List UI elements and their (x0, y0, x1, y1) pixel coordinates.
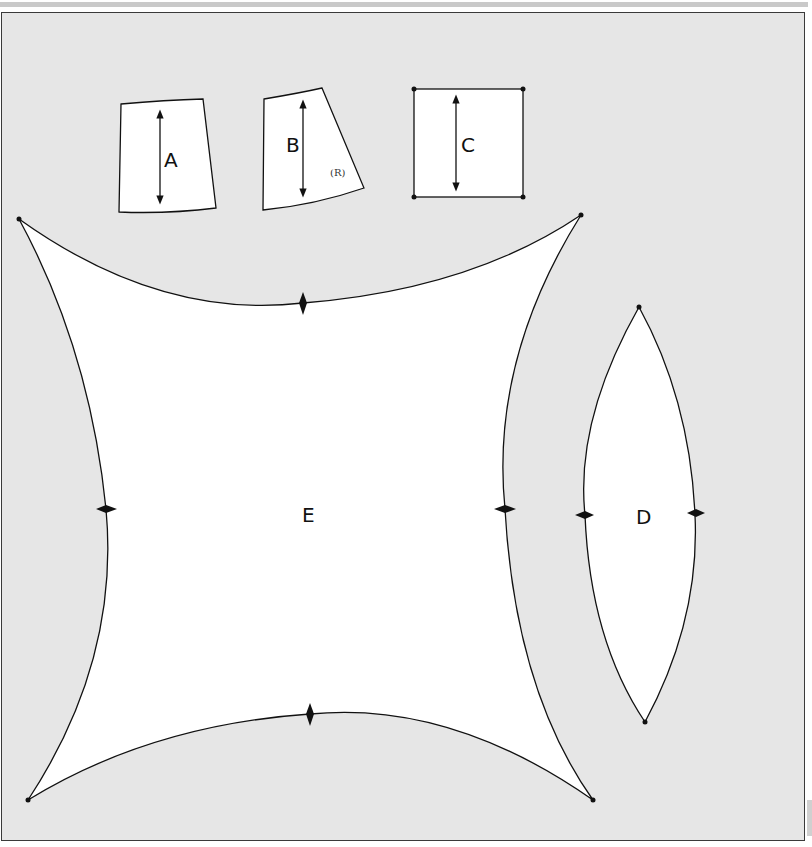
piece-note-reverse: (R) (330, 167, 345, 178)
pattern-canvas: A B (R) C E D (0, 0, 812, 847)
piece-a: A (119, 99, 216, 213)
piece-label-d: D (636, 505, 651, 529)
piece-d: D (575, 305, 705, 725)
piece-e: E (17, 213, 596, 803)
piece-c: C (412, 87, 526, 200)
piece-b: B (R) (263, 88, 364, 210)
piece-label-e: E (302, 503, 315, 527)
piece-label-c: C (461, 133, 475, 157)
piece-label-b: B (286, 133, 300, 157)
piece-label-a: A (164, 148, 178, 172)
